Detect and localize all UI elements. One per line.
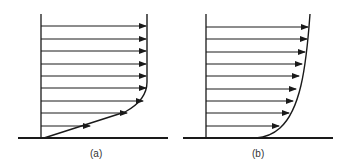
velocity-arrows-a xyxy=(41,26,146,126)
panel-b xyxy=(183,14,333,138)
panel-a xyxy=(18,14,168,138)
caption-b: (b) xyxy=(252,148,264,159)
velocity-profile-diagram xyxy=(0,0,348,166)
caption-a: (a) xyxy=(90,148,102,159)
